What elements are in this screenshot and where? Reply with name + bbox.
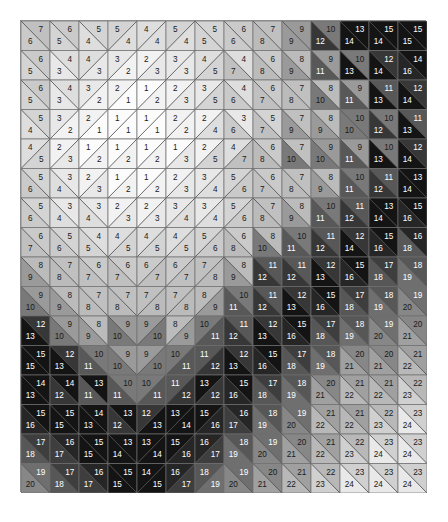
grid-cell: 76 [21, 21, 50, 51]
grid-cell: 1013 [369, 139, 398, 169]
grid-cell: 45 [166, 228, 195, 258]
grid-cell: 45 [108, 228, 137, 258]
grid-cell: 89 [166, 316, 195, 346]
grid-cell: 34 [50, 169, 79, 199]
grid-cell: 1112 [253, 257, 282, 287]
grid-cell: 32 [50, 110, 79, 140]
grid-cell: 1718 [340, 287, 369, 317]
grid-cell: 2223 [369, 405, 398, 435]
grid-cell: 78 [195, 257, 224, 287]
grid-cell: 1819 [253, 405, 282, 435]
grid-cell: 1718 [21, 434, 50, 464]
grid-cell: 78 [108, 287, 137, 317]
grid-cell: 1415 [137, 464, 166, 494]
grid-cell: 1515 [79, 434, 108, 464]
grid-cell: 1718 [369, 257, 398, 287]
grid-cell: 1311 [79, 375, 108, 405]
grid-cell: 1819 [282, 375, 311, 405]
grid-cell: 65 [50, 21, 79, 51]
grid-cell: 1213 [50, 346, 79, 376]
grid-cell: 2122 [282, 464, 311, 494]
grid-cell: 34 [195, 169, 224, 199]
grid-cell: 2324 [369, 464, 398, 494]
grid-cell: 21 [79, 110, 108, 140]
grid-cell: 78 [282, 169, 311, 199]
grid-cell: 44 [137, 21, 166, 51]
grid-cell: 1314 [137, 434, 166, 464]
grid-cell: 78 [137, 287, 166, 317]
grid-cell: 1819 [311, 346, 340, 376]
grid-cell: 1920 [253, 434, 282, 464]
grid-cell: 1412 [50, 375, 79, 405]
grid-cell: 34 [166, 198, 195, 228]
grid-cell: 54 [166, 21, 195, 51]
grid-cell: 1312 [108, 405, 137, 435]
grid-cell: 67 [253, 80, 282, 110]
grid-cell: 89 [195, 287, 224, 317]
grid-cell: 34 [79, 198, 108, 228]
grid-cell: 2122 [398, 346, 427, 376]
grid-cell: 79 [282, 110, 311, 140]
grid-cell: 78 [79, 287, 108, 317]
grid-cell: 1011 [340, 169, 369, 199]
grid-cell: 34 [195, 198, 224, 228]
grid-cell: 45 [21, 139, 50, 169]
grid-cell: 1112 [282, 257, 311, 287]
grid-cell: 2122 [311, 434, 340, 464]
grid-cell: 1112 [224, 316, 253, 346]
grid-cell: 1819 [369, 287, 398, 317]
grid-cell: 1012 [311, 21, 340, 51]
grid-cell: 810 [311, 80, 340, 110]
grid-cell: 89 [50, 287, 79, 317]
grid-cell: 47 [224, 51, 253, 81]
grid-cell: 67 [137, 257, 166, 287]
grid-cell: 1617 [195, 434, 224, 464]
grid-cell: 1718 [282, 346, 311, 376]
grid-cell: 1011 [224, 287, 253, 317]
grid-cell: 911 [340, 139, 369, 169]
grid-cell: 910 [108, 316, 137, 346]
grid-cell: 1314 [166, 405, 195, 435]
grid-cell: 68 [253, 51, 282, 81]
grid-cell: 12 [137, 169, 166, 199]
grid-cell: 68 [224, 228, 253, 258]
grid-cell: 1213 [311, 257, 340, 287]
grid-cell: 1516 [369, 228, 398, 258]
grid-cell: 11 [108, 110, 137, 140]
grid-cell: 1515 [398, 21, 427, 51]
grid-cell: 23 [137, 51, 166, 81]
grid-cell: 1011 [166, 346, 195, 376]
grid-cell: 1617 [224, 405, 253, 435]
grid-cell: 1011 [108, 375, 137, 405]
grid-cell: 89 [224, 257, 253, 287]
grid-cell: 1314 [340, 21, 369, 51]
grid-cell: 89 [282, 51, 311, 81]
grid-cell: 1920 [282, 405, 311, 435]
grid-cell: 1213 [224, 346, 253, 376]
grid-cell: 13 [166, 139, 195, 169]
grid-cell: 1516 [311, 287, 340, 317]
grid-cell: 89 [311, 169, 340, 199]
grid-cell: 2122 [340, 405, 369, 435]
grid-cell: 23 [166, 169, 195, 199]
grid-cell: 2324 [340, 464, 369, 494]
grid-cell: 32 [108, 51, 137, 81]
grid-cell: 1011 [137, 375, 166, 405]
grid-cell: 23 [108, 198, 137, 228]
grid-cell: 1819 [398, 257, 427, 287]
grid-cell: 35 [195, 80, 224, 110]
grid-cell: 68 [253, 139, 282, 169]
grid-cell: 78 [50, 257, 79, 287]
grid-cell: 12 [137, 80, 166, 110]
grid-cell: 2021 [311, 375, 340, 405]
grid-cell: 2223 [398, 375, 427, 405]
grid-cell: 2021 [369, 346, 398, 376]
grid-cell: 910 [21, 287, 50, 317]
grid-cell: 66 [224, 21, 253, 51]
grid-cell: 910 [311, 139, 340, 169]
grid-cell: 1819 [340, 316, 369, 346]
grid-cell: 56 [195, 228, 224, 258]
grid-cell: 910 [108, 346, 137, 376]
grid-cell: 12 [108, 169, 137, 199]
grid-cell: 78 [282, 80, 311, 110]
